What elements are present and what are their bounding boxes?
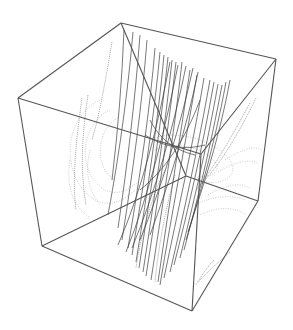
streamline-light bbox=[200, 209, 246, 215]
streamline-mid bbox=[82, 95, 88, 205]
box-edge bbox=[192, 154, 201, 311]
box-edge bbox=[201, 59, 276, 154]
streamline-light bbox=[69, 160, 90, 218]
box-edge bbox=[258, 59, 276, 201]
dark-streamlines bbox=[108, 30, 230, 285]
box-edge bbox=[18, 98, 42, 246]
streamline-light bbox=[88, 150, 100, 205]
streamline-light bbox=[70, 100, 135, 203]
streamline-light bbox=[218, 161, 258, 172]
streamline-light bbox=[208, 185, 250, 195]
box-edge bbox=[18, 23, 121, 98]
streamline-light bbox=[225, 148, 262, 160]
streamline-dark bbox=[184, 85, 222, 250]
box-edge bbox=[42, 246, 192, 311]
streamline-dark bbox=[139, 57, 168, 268]
box-edge bbox=[121, 23, 186, 176]
streamline-mid bbox=[74, 98, 82, 210]
box-edge bbox=[121, 23, 276, 59]
box-edge bbox=[192, 201, 258, 311]
streamline-dark bbox=[108, 32, 133, 215]
mid-streamlines bbox=[74, 42, 256, 285]
streamline-plot bbox=[0, 0, 293, 330]
streamline-light bbox=[195, 197, 245, 205]
